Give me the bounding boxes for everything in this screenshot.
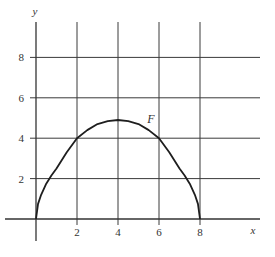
x-tick-label-2: 2 bbox=[74, 226, 80, 238]
labels: 24682468xyF bbox=[19, 5, 256, 238]
y-tick-label-2: 2 bbox=[19, 173, 25, 185]
curve-label-F: F bbox=[146, 112, 155, 126]
y-axis-label: y bbox=[32, 5, 38, 17]
y-tick-label-8: 8 bbox=[19, 51, 25, 63]
x-axis-label: x bbox=[250, 224, 256, 236]
y-tick-label-4: 4 bbox=[19, 132, 25, 144]
axes bbox=[5, 22, 260, 241]
y-tick-label-6: 6 bbox=[19, 92, 25, 104]
x-tick-label-8: 8 bbox=[197, 226, 203, 238]
x-tick-label-6: 6 bbox=[156, 226, 162, 238]
x-tick-label-4: 4 bbox=[115, 226, 121, 238]
grid bbox=[30, 22, 260, 225]
chart: 24682468xyF bbox=[0, 0, 275, 257]
